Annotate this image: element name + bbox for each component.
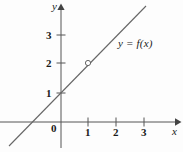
function-annotation-label: y = f(x)	[118, 38, 153, 49]
graph-figure: y x 0 1 2 3 1 2 3 y = f(x)	[0, 0, 183, 152]
x-axis-label: x	[172, 126, 177, 137]
origin-label: 0	[51, 123, 57, 134]
function-line	[9, 6, 146, 146]
x-tick-label-3: 3	[141, 127, 147, 138]
x-tick-label-2: 2	[113, 127, 119, 138]
open-circle-marker	[85, 60, 90, 65]
y-axis-arrow-icon	[57, 4, 64, 10]
coordinate-plot	[0, 0, 183, 152]
y-axis-label: y	[52, 1, 57, 12]
y-tick-label-1: 1	[46, 88, 52, 99]
y-tick-label-3: 3	[46, 30, 52, 41]
y-tick-label-2: 2	[46, 58, 52, 69]
x-tick-label-1: 1	[85, 127, 91, 138]
